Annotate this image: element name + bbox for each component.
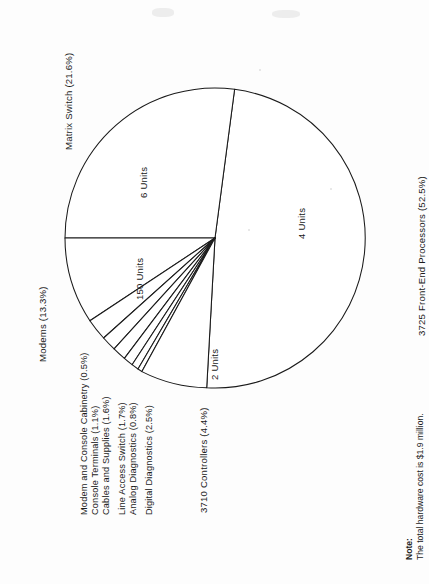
note-body: The total hardware cost is $1.9 million. — [415, 413, 426, 560]
pie-slice-front-end-processors[interactable] — [207, 89, 366, 388]
scan-artifact — [272, 10, 300, 18]
slice-value-matrix-switch: 6 Units — [139, 167, 150, 198]
slice-label-console-terminals: Console Terminals (1.1%) — [90, 406, 100, 515]
slice-value-front-end-processors: 4 Units — [297, 208, 308, 239]
scan-artifact — [259, 69, 261, 71]
slice-label-modem-console-cabinetry: Modem and Console Cabinetry (0.5%) — [79, 352, 89, 515]
slice-label-line-access-switch: Line Access Switch (1.7%) — [117, 402, 127, 515]
slice-label-3710-controllers: 3710 Controllers (4.4%) — [199, 407, 210, 513]
scan-artifact — [248, 229, 250, 231]
pie-chart-figure: Matrix Switch (21.6%) 3725 Front-End Pro… — [0, 0, 429, 584]
slice-label-digital-diagnostics: Digital Diagnostics (2.5%) — [144, 405, 154, 515]
slice-label-modems: Modems (13.3%) — [38, 286, 49, 362]
slice-value-3710-controllers: 2 Units — [210, 349, 221, 380]
slice-label-matrix-switch: Matrix Switch (21.6%) — [64, 53, 75, 150]
slice-value-modems: 150 Units — [135, 258, 146, 300]
pie-slice-matrix-switch[interactable] — [65, 88, 235, 238]
slice-label-front-end-processors: 3725 Front-End Processors (52.5%) — [417, 176, 428, 336]
note-block: Note: The total hardware cost is $1.9 mi… — [404, 413, 425, 560]
slice-label-analog-diagnostics: Analog Diagnostics (0.8%) — [128, 402, 138, 515]
note-title: Note: — [404, 413, 415, 560]
scan-artifact — [152, 8, 174, 17]
slice-label-cables-and-supplies: Cables and Supplies (1.6%) — [101, 396, 111, 515]
scan-artifact — [330, 188, 332, 190]
